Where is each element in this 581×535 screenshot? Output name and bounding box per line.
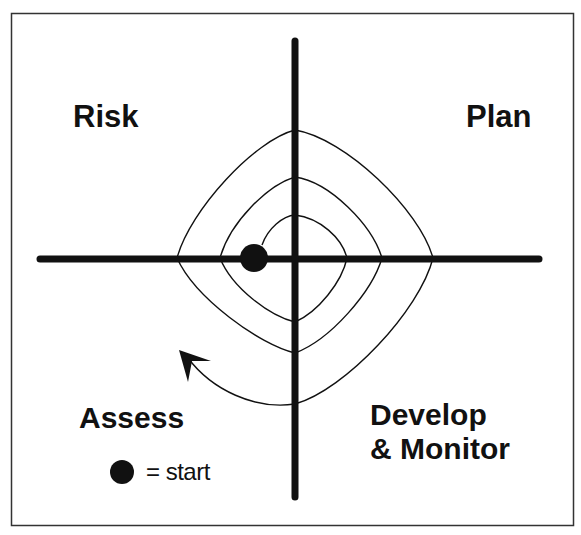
quadrant-label-assess: Assess [79,401,184,435]
quadrant-label-develop-monitor: Develop & Monitor [370,398,510,466]
quadrant-label-plan: Plan [466,99,531,135]
develop-line: Develop [370,398,510,432]
legend-text: = start [146,458,210,486]
monitor-line: & Monitor [370,432,510,466]
legend: = start [110,458,210,486]
spiral-curve [177,130,433,405]
quadrant-label-risk: Risk [73,99,138,135]
start-dot-icon [240,244,268,272]
legend-start-dot-icon [110,460,134,484]
